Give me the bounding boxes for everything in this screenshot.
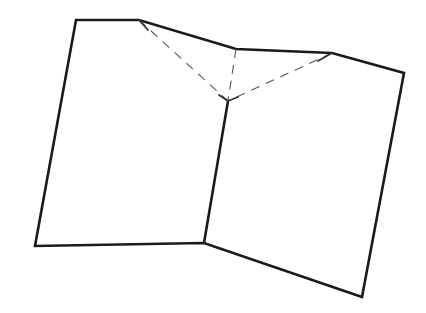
fold-line-center <box>228 49 236 101</box>
folded-sheet-diagram <box>0 0 426 313</box>
fold-tick-spine-left <box>219 95 228 101</box>
fold-tick-right-top <box>318 53 332 61</box>
fold-line-right <box>228 53 332 101</box>
spine-line <box>204 101 228 243</box>
fold-tick-spine-right <box>228 97 238 101</box>
